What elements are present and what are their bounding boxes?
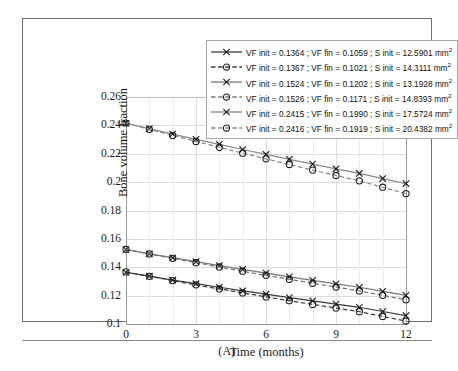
y-tick-label: 0.24 xyxy=(77,119,121,131)
legend-line-sample xyxy=(210,61,243,73)
y-tick-label: 0.22 xyxy=(77,148,121,160)
x-tick-label: 12 xyxy=(391,329,421,341)
legend-line-sample xyxy=(210,46,243,58)
y-axis-title: Bone volume fraction xyxy=(116,0,131,197)
y-tick-label: 0.2 xyxy=(77,176,121,188)
y-tick-label: 0.14 xyxy=(77,261,121,273)
y-tick-label: 0.1 xyxy=(77,318,121,330)
chart-legend: VF init = 0.1364 ; VF fin = 0.1059 ; S i… xyxy=(206,40,458,139)
legend-item: VF init = 0.1524 ; VF fin = 0.1202 ; S i… xyxy=(210,74,452,89)
legend-label: VF init = 0.1524 ; VF fin = 0.1202 ; S i… xyxy=(246,76,452,89)
y-tick-label: 0.18 xyxy=(77,205,121,217)
series-1 xyxy=(123,269,409,324)
legend-label: VF init = 0.1364 ; VF fin = 0.1059 ; S i… xyxy=(246,45,452,58)
legend-item: VF init = 0.2415 ; VF fin = 0.1990 ; S i… xyxy=(210,105,452,120)
legend-label: VF init = 0.2416 ; VF fin = 0.1919 ; S i… xyxy=(246,121,452,134)
legend-item: VF init = 0.1364 ; VF fin = 0.1059 ; S i… xyxy=(210,44,452,59)
x-tick-label: 0 xyxy=(111,329,141,341)
legend-item: VF init = 0.1526 ; VF fin = 0.1171 ; S i… xyxy=(210,90,452,105)
series-line xyxy=(126,249,406,299)
legend-label: VF init = 0.1367 ; VF fin = 0.1021 ; S i… xyxy=(246,60,451,73)
figure-border: 0.10.120.140.160.180.20.220.240.26 03691… xyxy=(22,18,432,322)
legend-item: VF init = 0.1367 ; VF fin = 0.1021 ; S i… xyxy=(210,59,452,74)
y-tick-label: 0.12 xyxy=(77,290,121,302)
y-tick-label: 0.16 xyxy=(77,233,121,245)
legend-line-sample xyxy=(210,122,243,134)
legend-label: VF init = 0.1526 ; VF fin = 0.1171 ; S i… xyxy=(246,91,452,104)
series-line xyxy=(126,272,406,321)
legend-line-sample xyxy=(210,106,243,118)
x-tick-label: 6 xyxy=(251,329,281,341)
data-point-marker-circle xyxy=(403,318,409,324)
legend-label: VF init = 0.2415 ; VF fin = 0.1990 ; S i… xyxy=(246,106,452,119)
legend-item: VF init = 0.2416 ; VF fin = 0.1919 ; S i… xyxy=(210,120,452,135)
x-tick-label: 9 xyxy=(321,329,351,341)
legend-line-sample xyxy=(210,76,243,88)
y-tick-label: 0.26 xyxy=(77,91,121,103)
caption-divider xyxy=(22,340,432,341)
x-tick-label: 3 xyxy=(181,329,211,341)
figure-caption: (A) xyxy=(22,344,432,359)
legend-line-sample xyxy=(210,91,243,103)
